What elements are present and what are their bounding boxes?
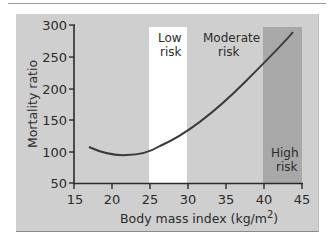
moderate-risk-label-line1: Moderate [203,31,260,45]
y-tick-200: 200 [42,82,67,97]
mortality-curve [89,32,293,155]
x-tick-45: 45 [294,192,311,207]
y-tick-250: 250 [42,50,67,65]
x-axis-title-main: Body mass index (kg/m [120,211,267,226]
y-tick-50: 50 [50,176,67,191]
x-axis-title: Body mass index (kg/m2) [120,209,278,226]
high-risk-label-line2: risk [276,160,298,174]
y-tick-100: 100 [42,145,67,160]
high-risk-label-line1: High [271,146,299,160]
y-axis-title: Mortality ratio [25,60,40,148]
low-risk-label-line2: risk [160,45,182,59]
x-tick-25: 25 [142,192,159,207]
x-tick-30: 30 [180,192,197,207]
x-tick-40: 40 [256,192,273,207]
x-tick-35: 35 [218,192,235,207]
x-tick-15: 15 [67,192,84,207]
x-tick-20: 20 [104,192,121,207]
moderate-risk-label-line2: risk [218,45,240,59]
y-tick-300: 300 [42,18,67,33]
y-tick-150: 150 [42,113,67,128]
x-axis-title-close: ) [273,211,278,226]
low-risk-label-line1: Low [158,31,182,45]
chart-svg: Low risk Moderate risk High risk 300 250… [0,0,334,243]
